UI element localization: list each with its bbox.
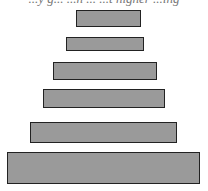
cropped-caption-text: ...y g... ...h ... ...t higher ...ing	[0, 0, 208, 7]
pyramid-bar-4	[43, 89, 165, 108]
pyramid-bar-1	[76, 10, 141, 27]
pyramid-bar-2	[66, 37, 144, 51]
pyramid-bar-6	[7, 152, 200, 184]
pyramid-bar-5	[30, 122, 177, 143]
pyramid-bar-3	[53, 62, 157, 80]
